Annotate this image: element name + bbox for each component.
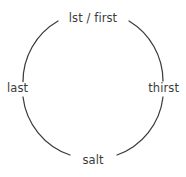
arc-top-to-right bbox=[129, 21, 163, 81]
cycle-diagram: lst / first thirst salt last bbox=[0, 0, 186, 177]
node-label-bottom: salt bbox=[79, 154, 106, 168]
node-label-top: lst / first bbox=[66, 12, 120, 26]
node-label-left: last bbox=[4, 82, 31, 96]
arc-left-to-top bbox=[23, 21, 58, 82]
arc-right-to-bottom bbox=[117, 97, 163, 155]
arc-bottom-to-left bbox=[23, 97, 70, 155]
node-label-right: thirst bbox=[145, 82, 182, 96]
